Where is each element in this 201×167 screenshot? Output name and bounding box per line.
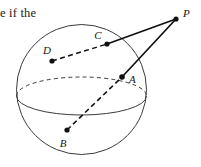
point-label-p: P (182, 7, 190, 19)
segment-p-c (107, 19, 176, 44)
sphere-outline-circle (17, 25, 147, 155)
chord-b-a (67, 77, 122, 130)
figure-root: e if the P C D A B (0, 0, 201, 167)
equator-front-arc (17, 96, 147, 115)
point-dot-a (119, 74, 125, 80)
point-dot-p (173, 16, 178, 21)
point-label-d: D (42, 44, 51, 56)
point-label-c: C (94, 29, 102, 41)
point-dot-b (64, 127, 69, 132)
point-dot-d (49, 58, 54, 63)
point-label-b: B (60, 137, 67, 149)
point-dot-c (104, 41, 109, 46)
point-label-a: A (128, 73, 136, 85)
segment-p-a (122, 19, 176, 77)
equator-back-arc (17, 77, 147, 96)
sphere-diagram: P C D A B (0, 0, 201, 167)
chord-d-c (52, 44, 107, 61)
